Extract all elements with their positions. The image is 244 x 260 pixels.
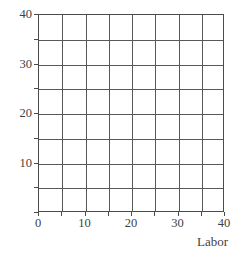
x-axis-title: Labor: [197, 234, 228, 250]
x-tick-mark: [154, 212, 155, 216]
gridline-horizontal: [39, 114, 223, 115]
gridline-vertical: [202, 15, 203, 211]
y-tick-label: 40: [20, 7, 33, 22]
y-tick-mark: [34, 64, 38, 65]
plot-area: [38, 14, 224, 212]
y-tick-mark: [34, 163, 38, 164]
gridline-horizontal: [39, 164, 223, 165]
gridline-vertical: [179, 15, 180, 211]
x-tick-mark: [61, 212, 62, 216]
y-tick-mark: [34, 39, 38, 40]
gridline-horizontal: [39, 65, 223, 66]
gridlines: [39, 15, 223, 211]
x-tick-mark: [201, 212, 202, 216]
gridline-horizontal: [39, 188, 223, 189]
x-tick-label: 10: [78, 216, 91, 231]
y-tick-mark: [34, 212, 38, 213]
x-tick-label: 0: [35, 216, 41, 231]
x-tick-label: 40: [218, 216, 231, 231]
y-tick-label: 30: [20, 56, 33, 71]
gridline-vertical: [86, 15, 87, 211]
gridline-horizontal: [39, 89, 223, 90]
gridline-vertical: [109, 15, 110, 211]
y-tick-mark: [34, 187, 38, 188]
gridline-vertical: [155, 15, 156, 211]
gridline-vertical: [132, 15, 133, 211]
y-tick-mark: [34, 14, 38, 15]
chart-figure: Labor 01020304010203040: [0, 0, 244, 260]
x-tick-mark: [108, 212, 109, 216]
y-tick-label: 10: [20, 155, 33, 170]
x-tick-label: 30: [171, 216, 184, 231]
gridline-vertical: [62, 15, 63, 211]
y-tick-mark: [34, 113, 38, 114]
y-tick-label: 20: [20, 106, 33, 121]
gridline-horizontal: [39, 40, 223, 41]
gridline-horizontal: [39, 139, 223, 140]
y-tick-mark: [34, 138, 38, 139]
y-tick-mark: [34, 88, 38, 89]
x-tick-label: 20: [125, 216, 138, 231]
